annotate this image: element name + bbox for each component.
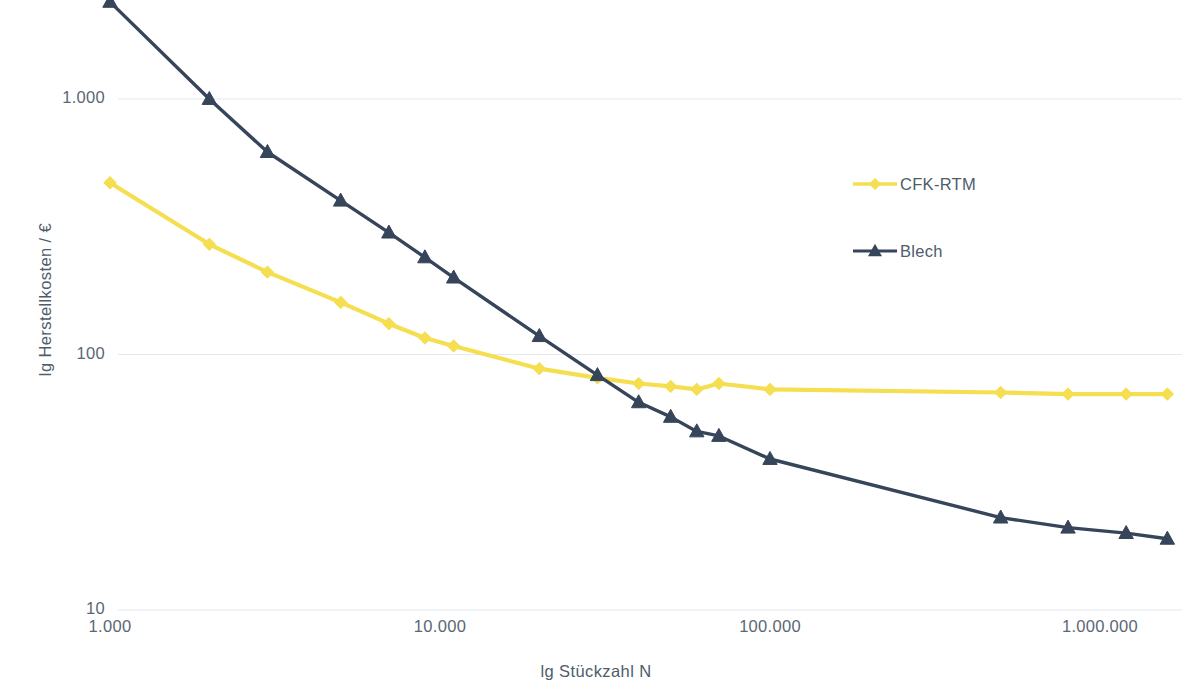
data-point xyxy=(994,386,1006,398)
diamond-marker-icon xyxy=(852,175,898,193)
chart-container: 1.00010010 1.00010.000100.0001.000.000 l… xyxy=(0,0,1192,694)
data-point xyxy=(382,225,396,238)
data-point xyxy=(1120,388,1132,400)
x-tick-label-2: 100.000 xyxy=(680,617,860,636)
y-axis-title: lg Herstellkosten / € xyxy=(36,160,55,440)
data-point xyxy=(103,0,117,7)
data-point xyxy=(632,377,644,389)
data-point xyxy=(383,317,395,329)
legend-label: CFK-RTM xyxy=(900,175,976,194)
y-tick-label-0: 1.000 xyxy=(10,88,105,107)
data-point xyxy=(664,380,676,392)
x-tick-label-1: 10.000 xyxy=(350,617,530,636)
data-point xyxy=(418,250,432,263)
x-tick-label-0: 1.000 xyxy=(20,617,200,636)
data-point xyxy=(334,296,346,308)
data-point xyxy=(333,193,347,206)
data-point xyxy=(1161,388,1173,400)
chart-legend: CFK-RTMBlech xyxy=(852,166,1082,300)
y-tick-label-1: 100 xyxy=(10,344,105,363)
data-point xyxy=(713,377,725,389)
data-point xyxy=(764,383,776,395)
data-point xyxy=(532,329,546,342)
data-point xyxy=(447,340,459,352)
legend-item-cfk-rtm[interactable]: CFK-RTM xyxy=(852,166,1082,202)
data-point xyxy=(590,368,604,381)
legend-item-blech[interactable]: Blech xyxy=(852,233,1082,269)
data-point xyxy=(631,395,645,408)
y-tick-label-2: 10 xyxy=(10,599,105,618)
data-point xyxy=(1062,388,1074,400)
data-point xyxy=(533,362,545,374)
data-point xyxy=(419,332,431,344)
triangle-marker-icon xyxy=(852,242,898,260)
data-point xyxy=(691,383,703,395)
legend-label: Blech xyxy=(900,242,943,261)
chart-plot-area xyxy=(0,0,1192,694)
x-axis-title: lg Stückzahl N xyxy=(0,662,1192,681)
x-tick-label-3: 1.000.000 xyxy=(1010,617,1190,636)
